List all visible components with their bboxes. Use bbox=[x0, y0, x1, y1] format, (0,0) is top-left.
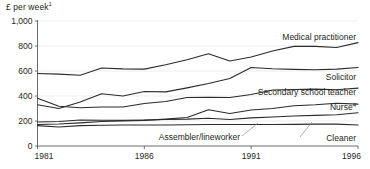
series-label: Medical practitioner bbox=[282, 32, 356, 42]
chart-canvas: 02004006008001,000 1981198619911996 Medi… bbox=[0, 0, 370, 169]
series-label: Assembler/lineworker bbox=[159, 132, 240, 142]
series-label: Solicitor bbox=[326, 72, 356, 82]
y-axis-tick-label: 800 bbox=[18, 41, 32, 51]
series-label: Secondary school teacher bbox=[258, 87, 356, 97]
series-lines bbox=[38, 43, 359, 127]
series-line bbox=[38, 43, 359, 76]
x-axis-tick-labels: 1981198619911996 bbox=[35, 151, 362, 161]
series-label-text: Assembler/lineworker bbox=[159, 132, 240, 142]
y-axis-tick-label: 400 bbox=[18, 91, 32, 101]
y-axis-tick-label: 200 bbox=[18, 116, 32, 126]
y-axis-tick-labels: 02004006008001,000 bbox=[11, 16, 33, 151]
series-label: Cleaner bbox=[326, 133, 356, 143]
x-axis-tick-label: 1981 bbox=[35, 151, 54, 161]
series-label-footnote: 4 bbox=[353, 102, 357, 108]
x-axis-tick-label: 1991 bbox=[242, 151, 261, 161]
y-axis-tick-label: 600 bbox=[18, 66, 32, 76]
series-label-text: Secondary school teacher bbox=[258, 87, 356, 97]
series-label-text: Nurse bbox=[330, 102, 353, 112]
series-label: Nurse4 bbox=[330, 102, 357, 112]
line-chart: £ per week1 02004006008001,000 198119861… bbox=[0, 0, 370, 169]
y-axis-tick-label: 1,000 bbox=[11, 16, 33, 26]
series-label-text: Cleaner bbox=[326, 133, 356, 143]
y-axis-tick-label: 0 bbox=[28, 141, 33, 151]
series-label-text: Solicitor bbox=[326, 72, 356, 82]
x-axis-tick-label: 1996 bbox=[342, 151, 361, 161]
x-axis-tick-label: 1986 bbox=[135, 151, 154, 161]
series-label-text: Medical practitioner bbox=[282, 32, 356, 42]
